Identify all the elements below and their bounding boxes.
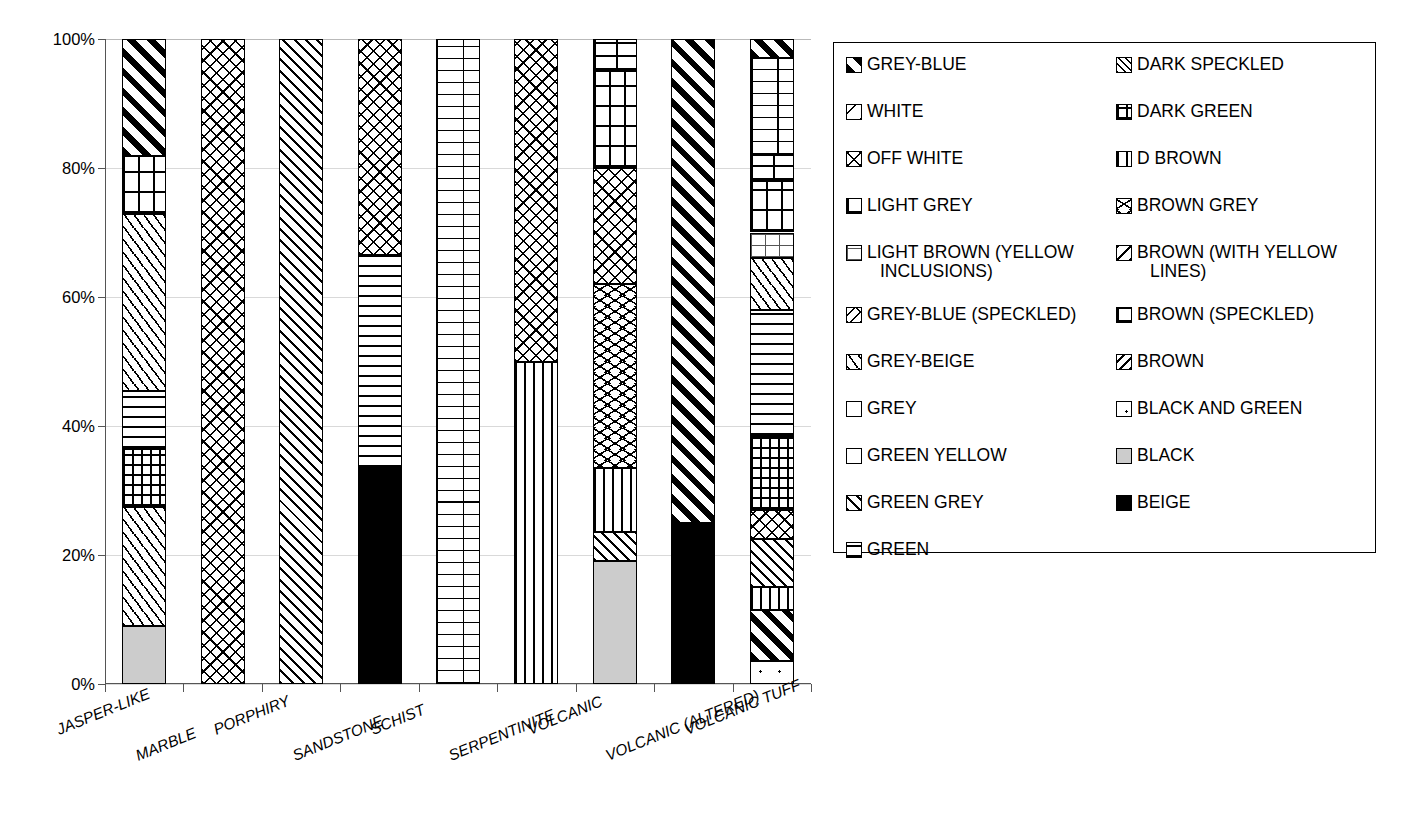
legend-item[interactable]: BROWN (SPECKLED) bbox=[1116, 305, 1366, 352]
legend-item[interactable]: BLACK bbox=[1116, 446, 1366, 493]
legend-swatch-icon bbox=[1116, 307, 1132, 323]
chart-plot-area: 0%20%40%60%80%100% JASPER-LIKEMARBLEPORP… bbox=[0, 0, 830, 816]
bar-sandstone[interactable] bbox=[358, 39, 402, 684]
bar-segment[interactable] bbox=[593, 468, 637, 533]
bar-segment[interactable] bbox=[201, 39, 245, 684]
y-axis-tick-mark bbox=[98, 555, 105, 556]
chart-legend: GREY-BLUEWHITEOFF WHITELIGHT GREYLIGHT B… bbox=[833, 42, 1376, 553]
legend-item[interactable]: BROWN GREY bbox=[1116, 196, 1366, 243]
y-axis-tick-label: 80% bbox=[33, 160, 95, 177]
legend-item[interactable]: BROWN bbox=[1116, 352, 1366, 399]
bar-segment[interactable] bbox=[358, 468, 402, 684]
bar-segment[interactable] bbox=[750, 58, 794, 155]
legend-item-label: DARK SPECKLED bbox=[1137, 55, 1284, 74]
bar-segment[interactable] bbox=[593, 532, 637, 561]
legend-item[interactable]: WHITE bbox=[846, 102, 1108, 149]
legend-item[interactable]: GREEN bbox=[846, 540, 1108, 587]
legend-item[interactable]: D BROWN bbox=[1116, 149, 1366, 196]
bar-segment[interactable] bbox=[514, 362, 558, 685]
legend-item[interactable]: GREY-BLUE bbox=[846, 55, 1108, 102]
legend-swatch-icon bbox=[846, 401, 862, 417]
legend-item[interactable]: GREY bbox=[846, 399, 1108, 446]
legend-item-label: LIGHT GREY bbox=[867, 196, 973, 215]
bar-segment[interactable] bbox=[122, 626, 166, 684]
legend-item-label: DARK GREEN bbox=[1137, 102, 1253, 121]
bar-segment[interactable] bbox=[750, 39, 794, 58]
y-axis-tick-mark bbox=[98, 297, 105, 298]
bar-segment[interactable] bbox=[122, 156, 166, 214]
bars-layer bbox=[105, 39, 811, 684]
legend-swatch-icon bbox=[1116, 104, 1132, 120]
legend-item-label: BROWN GREY bbox=[1137, 196, 1259, 215]
bar-segment[interactable] bbox=[593, 71, 637, 168]
bar-segment[interactable] bbox=[750, 258, 794, 310]
legend-item[interactable]: GREEN YELLOW bbox=[846, 446, 1108, 493]
bar-segment[interactable] bbox=[593, 39, 637, 71]
legend-item-label: BEIGE bbox=[1137, 493, 1191, 512]
x-axis-label: JASPER-LIKE bbox=[54, 685, 153, 739]
x-axis-label: MARBLE bbox=[133, 724, 199, 765]
bar-marble[interactable] bbox=[201, 39, 245, 684]
bar-segment[interactable] bbox=[358, 39, 402, 255]
bar-segment[interactable] bbox=[122, 507, 166, 626]
legend-swatch-icon bbox=[846, 542, 862, 558]
bar-segment[interactable] bbox=[750, 310, 794, 436]
legend-item[interactable]: GREEN GREY bbox=[846, 493, 1108, 540]
bar-segment[interactable] bbox=[750, 436, 794, 510]
bar-segment[interactable] bbox=[750, 539, 794, 587]
y-axis-tick-mark bbox=[98, 168, 105, 169]
bar-segment[interactable] bbox=[750, 233, 794, 259]
bar-segment[interactable] bbox=[122, 39, 166, 156]
bar-segment[interactable] bbox=[750, 181, 794, 233]
legend-swatch-icon bbox=[846, 151, 862, 167]
legend-item-label: D BROWN bbox=[1137, 149, 1222, 168]
legend-item-label: GREY-BLUE (SPECKLED) bbox=[867, 305, 1076, 324]
bar-segment[interactable] bbox=[750, 610, 794, 662]
bar-serpentinite[interactable] bbox=[514, 39, 558, 684]
y-axis-tick-mark bbox=[98, 39, 105, 40]
legend-item[interactable]: BLACK AND GREEN bbox=[1116, 399, 1366, 446]
legend-item[interactable]: LIGHT BROWN (YELLOWINCLUSIONS) bbox=[846, 243, 1108, 305]
bar-porphiry[interactable] bbox=[279, 39, 323, 684]
legend-item[interactable]: BROWN (WITH YELLOWLINES) bbox=[1116, 243, 1366, 305]
legend-item[interactable]: DARK SPECKLED bbox=[1116, 55, 1366, 102]
bar-segment[interactable] bbox=[358, 255, 402, 468]
bar-schist[interactable] bbox=[436, 39, 480, 684]
x-axis-label: SCHIST bbox=[368, 701, 427, 739]
bar-segment[interactable] bbox=[671, 39, 715, 523]
legend-column-right: DARK SPECKLEDDARK GREEND BROWNBROWN GREY… bbox=[1116, 55, 1366, 540]
legend-item-label: BROWN bbox=[1137, 352, 1204, 371]
bar-volcanic-tuff[interactable] bbox=[750, 39, 794, 684]
legend-item[interactable]: GREY-BLUE (SPECKLED) bbox=[846, 305, 1108, 352]
legend-item[interactable]: GREY-BEIGE bbox=[846, 352, 1108, 399]
bar-segment[interactable] bbox=[122, 214, 166, 390]
bar-segment[interactable] bbox=[593, 168, 637, 284]
bar-volcanic-altered[interactable] bbox=[671, 39, 715, 684]
bar-segment[interactable] bbox=[436, 39, 480, 684]
legend-swatch-icon bbox=[846, 198, 862, 214]
legend-item-label: WHITE bbox=[867, 102, 923, 121]
legend-item[interactable]: LIGHT GREY bbox=[846, 196, 1108, 243]
y-axis-tick-label: 20% bbox=[33, 547, 95, 564]
legend-item-label: BROWN (WITH YELLOWLINES) bbox=[1137, 243, 1337, 281]
bar-segment[interactable] bbox=[750, 587, 794, 610]
bar-segment[interactable] bbox=[671, 523, 715, 684]
bar-segment[interactable] bbox=[593, 284, 637, 468]
legend-swatch-icon bbox=[1116, 495, 1132, 511]
bar-segment[interactable] bbox=[750, 155, 794, 181]
bar-jasper-like[interactable] bbox=[122, 39, 166, 684]
bar-segment[interactable] bbox=[750, 510, 794, 539]
bar-segment[interactable] bbox=[279, 39, 323, 684]
legend-item[interactable]: OFF WHITE bbox=[846, 149, 1108, 196]
legend-item[interactable]: BEIGE bbox=[1116, 493, 1366, 540]
bar-segment[interactable] bbox=[122, 449, 166, 507]
legend-item-label: GREEN GREY bbox=[867, 493, 984, 512]
bar-segment[interactable] bbox=[122, 391, 166, 449]
legend-swatch-icon bbox=[846, 448, 862, 464]
legend-item-label: OFF WHITE bbox=[867, 149, 963, 168]
legend-item[interactable]: DARK GREEN bbox=[1116, 102, 1366, 149]
x-axis-label: VOLCANIC TUFF bbox=[682, 676, 803, 739]
bar-segment[interactable] bbox=[593, 561, 637, 684]
bar-segment[interactable] bbox=[514, 39, 558, 362]
bar-volcanic[interactable] bbox=[593, 39, 637, 684]
